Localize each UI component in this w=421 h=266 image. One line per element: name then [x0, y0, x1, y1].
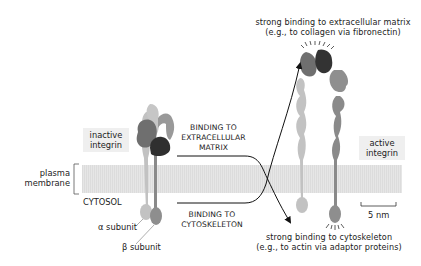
binding-ecm-line3: MATRIX — [176, 143, 251, 153]
activation-rays-bottom — [326, 224, 344, 230]
inactive-label-line1: inactive — [86, 130, 126, 140]
membrane-label-line1: plasma — [24, 168, 70, 178]
inactive-integrin-label: inactive integrin — [83, 128, 129, 152]
active-label-line1: active — [362, 138, 402, 148]
beta-subunit-label: β subunit — [122, 242, 161, 252]
binding-ecm-line1: BINDING TO — [176, 123, 251, 133]
top-caption: strong binding to extracellular matrix (… — [248, 17, 418, 37]
bottom-caption-line1: strong binding to cytoskeleton — [244, 232, 414, 242]
scale-bar — [361, 202, 396, 206]
binding-ecm-label: BINDING TO EXTRACELLULAR MATRIX — [176, 123, 251, 153]
plasma-membrane-band — [82, 165, 402, 193]
active-integrin — [296, 41, 348, 230]
top-caption-line2: (e.g., to collagen via fibronectin) — [248, 27, 418, 37]
alpha-leader-line — [137, 219, 143, 225]
active-integrin-label: active integrin — [359, 136, 405, 160]
inactive-integrin — [137, 104, 174, 225]
binding-cyto-line2: CYTOSKELETON — [176, 220, 248, 230]
alpha-subunit-label: α subunit — [98, 222, 137, 232]
membrane-bracket — [74, 164, 79, 194]
membrane-label-line2: membrane — [24, 178, 70, 188]
bottom-caption: strong binding to cytoskeleton (e.g., to… — [244, 232, 414, 252]
binding-cyto-line1: BINDING TO — [176, 210, 248, 220]
plasma-membrane-label: plasma membrane — [24, 168, 70, 188]
activation-rays-top — [301, 41, 334, 49]
inactive-label-line2: integrin — [86, 140, 126, 150]
top-caption-line1: strong binding to extracellular matrix — [248, 17, 418, 27]
active-label-line2: integrin — [362, 148, 402, 158]
bottom-caption-line2: (e.g., to actin via adaptor proteins) — [244, 242, 414, 252]
cytosol-label: CYTOSOL — [83, 197, 122, 207]
scale-bar-label: 5 nm — [368, 210, 389, 220]
binding-ecm-line2: EXTRACELLULAR — [176, 133, 251, 143]
binding-cyto-label: BINDING TO CYTOSKELETON — [176, 210, 248, 230]
